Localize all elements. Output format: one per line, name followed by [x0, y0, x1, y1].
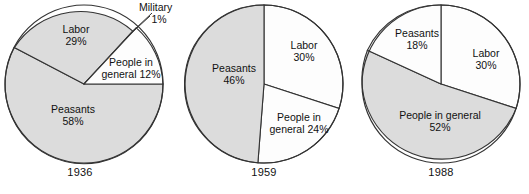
label-text-people-1959-line1: People in [277, 111, 321, 123]
label-text-military-1936: Military [139, 1, 172, 13]
label-text-peasants-1988: Peasants [395, 27, 439, 39]
year-label-1936: 1936 [0, 166, 168, 178]
label-text-labor-1988: Labor [473, 47, 500, 59]
slice-label-people-in-general-1988: People in general 52% [381, 110, 499, 133]
label-text-peasants-1959: Peasants [212, 62, 256, 74]
caption-strip [0, 188, 529, 194]
year-label-1988: 1988 [353, 166, 529, 178]
pie-chart-1959: Labor 30% Peasants 46% People in general… [176, 0, 352, 194]
label-pct-peasants-1988: 18% [381, 40, 453, 52]
label-pct-labor-1936: 29% [46, 36, 106, 48]
slice-label-peasants-1988: Peasants 18% [381, 28, 453, 51]
slice-label-people-in-general-1936: People in general 12% [92, 57, 170, 80]
pie-chart-figure: Labor 29% Military 1% People in general … [0, 0, 529, 194]
slice-label-labor-1988: Labor 30% [457, 48, 515, 71]
label-pct-labor-1988: 30% [457, 60, 515, 72]
slice-label-labor-1936: Labor 29% [46, 24, 106, 47]
slice-label-peasants-1936: Peasants 58% [37, 104, 109, 127]
year-label-1959: 1959 [176, 166, 352, 178]
slice-label-labor-1959: Labor 30% [274, 40, 334, 63]
label-text-labor-1936: Labor [63, 23, 90, 35]
label-pct-peasants-1936: 58% [37, 116, 109, 128]
label-text-people-1936-line1: People in [109, 56, 153, 68]
label-pct-peasants-1959: 46% [200, 75, 268, 87]
pie-chart-1936: Labor 29% Military 1% People in general … [0, 0, 176, 194]
pie-svg-1959 [176, 0, 352, 176]
slice-label-peasants-1959: Peasants 46% [200, 63, 268, 86]
pie-chart-1988: Peasants 18% Labor 30% People in general… [353, 0, 529, 194]
pie-svg-1988 [353, 0, 529, 176]
label-pct-labor-1959: 30% [274, 52, 334, 64]
label-text-people-1936-line2: general 12% [92, 69, 170, 81]
label-text-people-1959-line2: general 24% [258, 124, 340, 136]
label-text-labor-1959: Labor [291, 39, 318, 51]
label-pct-military-1936: 1% [139, 14, 179, 26]
label-text-people-1988-line1: People in general [399, 109, 481, 121]
label-text-peasants-1936: Peasants [51, 103, 95, 115]
slice-label-people-in-general-1959: People in general 24% [258, 112, 340, 135]
label-text-people-1988-line2: 52% [381, 122, 499, 134]
